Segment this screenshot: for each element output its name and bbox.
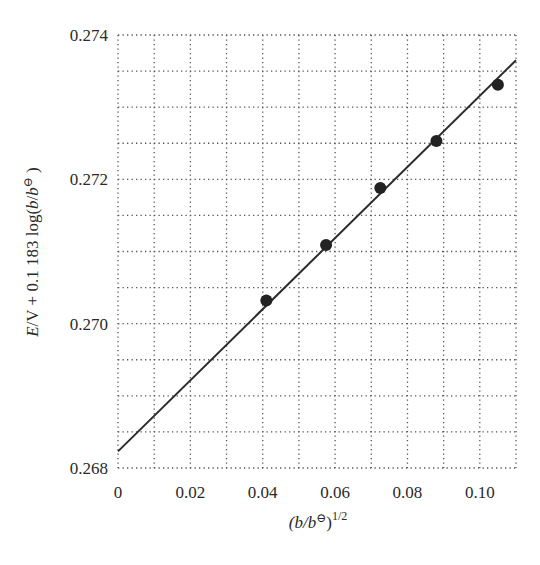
y-axis-label: E/V + 0.1 183 log(b/b⊖ ) bbox=[21, 167, 42, 338]
x-axis-label: (b/b⊖)1/2 bbox=[289, 509, 347, 532]
fit-line-path bbox=[118, 60, 516, 451]
y-axis-ticks: 0.2680.2700.2720.274 bbox=[70, 26, 109, 478]
y-tick-label: 0.268 bbox=[70, 459, 108, 478]
x-axis-ticks: 00.020.040.060.080.10 bbox=[114, 483, 495, 502]
data-point bbox=[430, 135, 442, 147]
data-point bbox=[260, 295, 272, 307]
y-tick-label: 0.270 bbox=[70, 315, 108, 334]
data-point bbox=[374, 182, 386, 194]
grid bbox=[118, 35, 516, 468]
x-tick-label: 0 bbox=[114, 483, 123, 502]
x-tick-label: 0.04 bbox=[248, 483, 278, 502]
fit-line bbox=[118, 60, 516, 451]
x-tick-label: 0.06 bbox=[320, 483, 350, 502]
chart: 00.020.040.060.080.10 0.2680.2700.2720.2… bbox=[0, 0, 540, 565]
data-point bbox=[320, 239, 332, 251]
y-tick-label: 0.274 bbox=[70, 26, 109, 45]
data-point bbox=[492, 79, 504, 91]
x-tick-label: 0.10 bbox=[465, 483, 495, 502]
x-tick-label: 0.08 bbox=[393, 483, 423, 502]
x-tick-label: 0.02 bbox=[175, 483, 205, 502]
y-tick-label: 0.272 bbox=[70, 170, 108, 189]
data-points bbox=[260, 79, 504, 307]
